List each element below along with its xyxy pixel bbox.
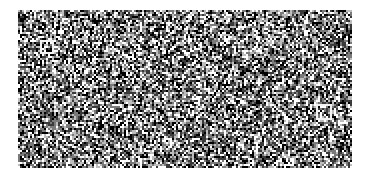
marker-square-2 — [316, 104, 332, 120]
marker-square-1 — [40, 40, 54, 54]
noise-pattern — [18, 10, 352, 168]
